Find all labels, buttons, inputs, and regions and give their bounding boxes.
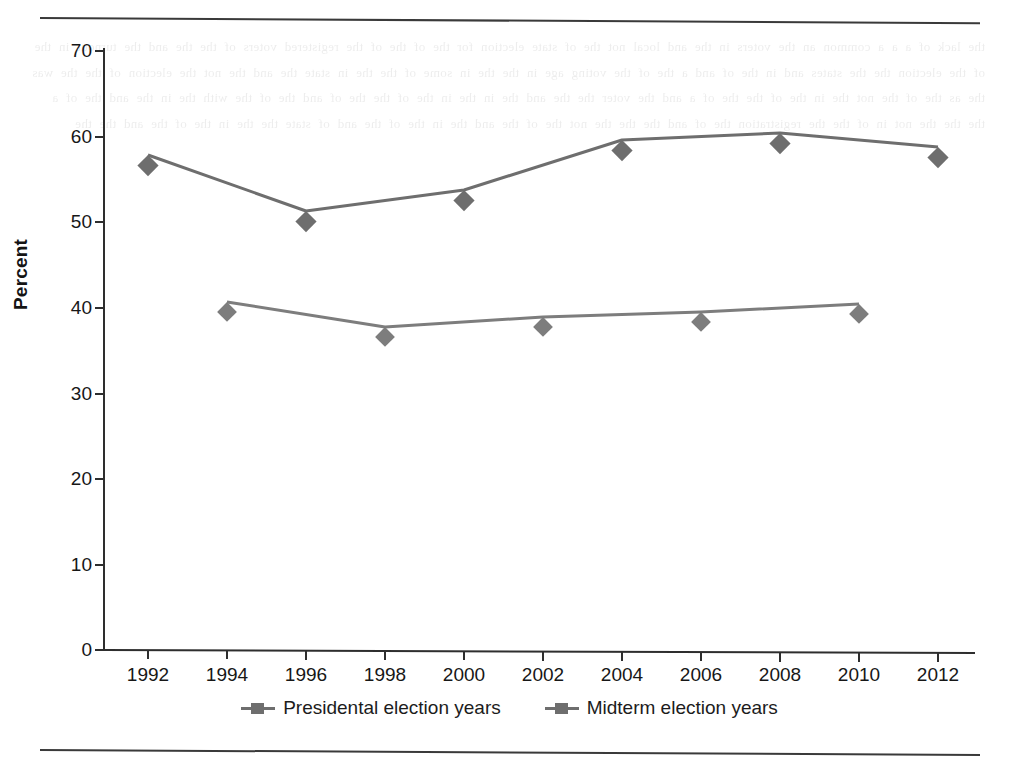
legend-marker-icon: [545, 701, 579, 715]
data-point-marker: [927, 147, 948, 168]
legend-item-midterm-election-years[interactable]: Midterm election years: [545, 697, 778, 719]
legend-label: Midterm election years: [587, 697, 778, 719]
data-point-marker: [295, 211, 316, 232]
data-point-marker: [533, 317, 553, 337]
legend-marker-icon: [241, 701, 275, 715]
data-point-marker: [217, 302, 237, 322]
series-midterm-election-years: [217, 302, 869, 347]
plot-area: [0, 0, 1019, 771]
data-point-marker: [375, 327, 395, 347]
legend-item-presidental-election-years[interactable]: Presidental election years: [241, 697, 501, 719]
data-point-marker: [849, 304, 869, 324]
line-chart-figure: Percent 70 60 50 40 30 20 10 0 1992 1994…: [0, 0, 1019, 771]
chart-legend: Presidental election years Midterm elect…: [0, 697, 1019, 719]
legend-label: Presidental election years: [283, 697, 501, 719]
data-point-marker: [769, 133, 790, 154]
series-presidental-election-years: [137, 133, 948, 232]
chart-axes: [95, 48, 975, 662]
data-point-marker: [453, 190, 474, 211]
data-point-marker: [691, 312, 711, 332]
